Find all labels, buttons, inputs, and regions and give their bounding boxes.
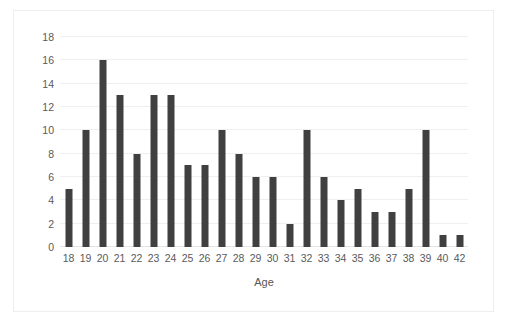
y-axis-tick-label: 6 — [10, 171, 54, 183]
x-axis-tick-label: 25 — [182, 252, 194, 264]
x-axis-tick-label: 28 — [233, 252, 245, 264]
bar — [320, 177, 327, 247]
x-axis-tick-label: 18 — [63, 252, 75, 264]
gridline — [60, 59, 468, 60]
x-axis-tick-label: 32 — [301, 252, 313, 264]
x-axis-tick-label: 19 — [80, 252, 92, 264]
bar — [269, 177, 276, 247]
y-axis-tick-label: 8 — [10, 148, 54, 160]
x-axis-tick-label: 37 — [386, 252, 398, 264]
x-axis-tick-label: 42 — [454, 252, 466, 264]
x-axis-tick-label: 24 — [165, 252, 177, 264]
bar — [167, 95, 174, 247]
bar — [82, 130, 89, 247]
x-axis-tick-label: 31 — [284, 252, 296, 264]
bar — [456, 235, 463, 247]
y-axis-tick-label: 0 — [10, 241, 54, 253]
x-axis-tick-label: 26 — [199, 252, 211, 264]
gridline — [60, 36, 468, 37]
y-axis-tick-label: 2 — [10, 218, 54, 230]
x-axis-tick-label: 21 — [114, 252, 126, 264]
bar — [65, 189, 72, 247]
x-axis-tick-label: 23 — [148, 252, 160, 264]
bar — [303, 130, 310, 247]
bar — [218, 130, 225, 247]
bar — [422, 130, 429, 247]
bar — [99, 60, 106, 247]
x-axis-tick-label: 39 — [420, 252, 432, 264]
x-axis-tick-label: 29 — [250, 252, 262, 264]
x-axis-title: Age — [60, 276, 468, 288]
gridline — [60, 83, 468, 84]
bar — [252, 177, 259, 247]
bar — [116, 95, 123, 247]
bar — [405, 189, 412, 247]
bar — [235, 154, 242, 247]
x-axis-tick-label: 33 — [318, 252, 330, 264]
bar — [184, 165, 191, 247]
x-axis-tick-label: 27 — [216, 252, 228, 264]
plot-area — [60, 37, 468, 247]
bar — [388, 212, 395, 247]
x-axis-tick-label: 36 — [369, 252, 381, 264]
y-axis-tick-label: 12 — [10, 101, 54, 113]
y-axis-tick-label: 18 — [10, 31, 54, 43]
y-axis-tick-label: 4 — [10, 194, 54, 206]
x-axis-tick-label: 38 — [403, 252, 415, 264]
y-axis-tick-label: 14 — [10, 78, 54, 90]
bar — [371, 212, 378, 247]
x-axis-tick-label: 35 — [352, 252, 364, 264]
x-axis-tick-label: 30 — [267, 252, 279, 264]
x-axis-tick-label: 20 — [97, 252, 109, 264]
bar — [150, 95, 157, 247]
x-axis-tick-label: 34 — [335, 252, 347, 264]
bar — [201, 165, 208, 247]
bar — [354, 189, 361, 247]
bar — [133, 154, 140, 247]
bar-chart-figure: 024681012141618 181920212223242526272829… — [0, 0, 508, 324]
x-axis-tick-labels: 1819202122232425262728293031323334353637… — [60, 252, 468, 268]
y-axis-tick-label: 16 — [10, 54, 54, 66]
y-axis-tick-label: 10 — [10, 124, 54, 136]
x-axis-tick-label: 40 — [437, 252, 449, 264]
bar — [337, 200, 344, 247]
bar — [439, 235, 446, 247]
bar — [286, 224, 293, 247]
x-axis-tick-label: 22 — [131, 252, 143, 264]
y-axis-tick-labels: 024681012141618 — [8, 37, 54, 247]
